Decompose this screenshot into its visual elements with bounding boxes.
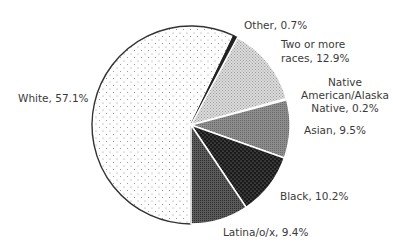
- label-two-or-more-line2: races, 12.9%: [281, 52, 350, 64]
- label-native-line2: American/Alaska: [301, 89, 389, 101]
- pie-chart-svg: White, 57.1% Other, 0.7% Two or more rac…: [0, 0, 393, 251]
- label-two-or-more-line1: Two or more: [280, 38, 345, 50]
- pie-chart: White, 57.1% Other, 0.7% Two or more rac…: [0, 0, 393, 251]
- label-black: Black, 10.2%: [280, 190, 348, 202]
- label-other: Other, 0.7%: [244, 19, 307, 31]
- label-white: White, 57.1%: [18, 92, 89, 104]
- label-native-line3: Native, 0.2%: [311, 102, 378, 114]
- label-latina: Latina/o/x, 9.4%: [223, 226, 308, 238]
- label-native-line1: Native: [328, 76, 362, 88]
- label-asian: Asian, 9.5%: [304, 124, 366, 136]
